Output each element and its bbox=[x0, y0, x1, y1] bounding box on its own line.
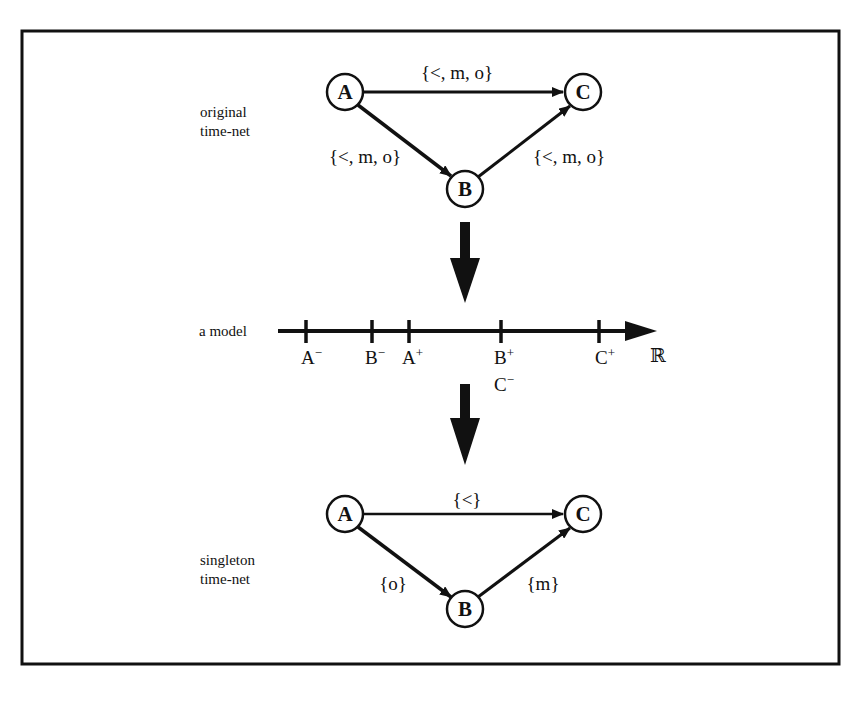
svg-text:A: A bbox=[337, 80, 353, 104]
model-timeline: a model A− B− A+ B+ C− C+ ℝ bbox=[199, 320, 666, 395]
tick-label-b-plus: B+ bbox=[494, 345, 514, 368]
node-a-top: A bbox=[327, 74, 363, 110]
edge-label-b-c-bottom: {m} bbox=[526, 573, 559, 594]
original-time-net: original time-net {<, m, o} {<, m, o} {<… bbox=[200, 62, 605, 207]
svg-text:A: A bbox=[337, 502, 353, 526]
node-b-top: B bbox=[447, 171, 483, 207]
svg-text:C: C bbox=[575, 80, 590, 104]
node-b-bottom: B bbox=[447, 591, 483, 627]
edge-label-b-c-top: {<, m, o} bbox=[533, 146, 605, 167]
tick-label-c-plus: C+ bbox=[595, 345, 615, 368]
tick-label-c-minus: C− bbox=[494, 372, 514, 395]
time-net-label-bottom: time-net bbox=[200, 571, 251, 587]
edge-label-a-b-top: {<, m, o} bbox=[329, 146, 401, 167]
time-net-label-top: time-net bbox=[200, 123, 251, 139]
svg-text:B: B bbox=[458, 597, 472, 621]
node-c-bottom: C bbox=[565, 496, 601, 532]
axis-arrowhead-icon bbox=[625, 321, 657, 341]
svg-text:B: B bbox=[458, 177, 472, 201]
real-numbers-symbol: ℝ bbox=[650, 345, 666, 366]
original-label: original bbox=[200, 104, 247, 120]
edge-label-a-c-top: {<, m, o} bbox=[421, 62, 493, 83]
tick-label-a-plus: A+ bbox=[402, 345, 423, 368]
a-model-label: a model bbox=[199, 323, 247, 339]
edge-label-a-c-bottom: {<} bbox=[453, 489, 482, 510]
diagram-canvas: original time-net {<, m, o} {<, m, o} {<… bbox=[0, 0, 862, 701]
tick-label-a-minus: A− bbox=[301, 345, 322, 368]
node-c-top: C bbox=[565, 74, 601, 110]
singleton-label: singleton bbox=[200, 552, 255, 568]
svg-text:C: C bbox=[575, 502, 590, 526]
down-arrow-icon bbox=[450, 384, 480, 465]
node-a-bottom: A bbox=[327, 496, 363, 532]
figure-frame bbox=[22, 31, 839, 664]
edge-label-a-b-bottom: {o} bbox=[379, 573, 407, 594]
singleton-time-net: singleton time-net {<} {o} {m} A C B bbox=[200, 489, 601, 627]
tick-label-b-minus: B− bbox=[365, 345, 385, 368]
down-arrow-icon bbox=[450, 222, 480, 303]
